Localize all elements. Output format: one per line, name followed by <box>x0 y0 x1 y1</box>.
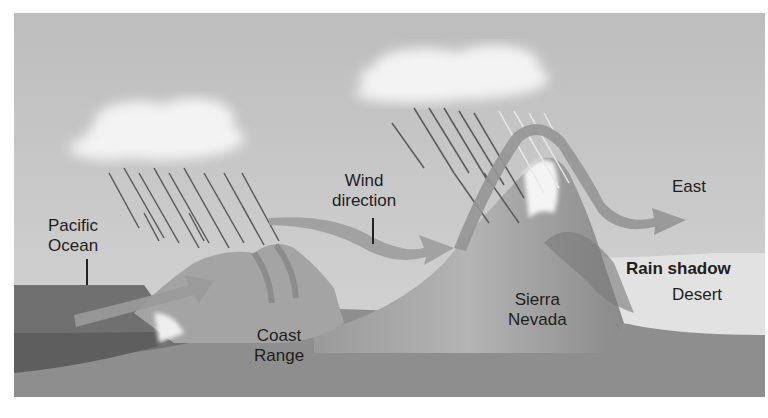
label-sierra-nevada: Sierra Nevada <box>508 290 567 330</box>
leader-pacific-ocean <box>86 259 88 285</box>
rain-shadow-diagram: Pacific Ocean Wind direction East Coast … <box>14 13 765 397</box>
label-desert: Desert <box>672 285 722 305</box>
label-pacific-ocean: Pacific Ocean <box>48 216 98 256</box>
label-rain-shadow: Rain shadow <box>626 259 731 279</box>
label-wind-direction: Wind direction <box>332 171 396 211</box>
label-east: East <box>672 177 706 197</box>
leader-wind-direction <box>372 218 374 244</box>
label-coast-range: Coast Range <box>254 326 304 366</box>
